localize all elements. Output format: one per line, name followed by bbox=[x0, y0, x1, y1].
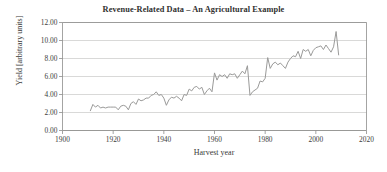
x-axis-title: Harvest year bbox=[62, 148, 366, 157]
y-tick-label: 12.00 bbox=[18, 18, 58, 27]
y-tick-label: 6.00 bbox=[18, 72, 58, 81]
x-tick-label: 1920 bbox=[96, 135, 130, 144]
plot-area bbox=[0, 0, 387, 172]
x-tick-label: 2020 bbox=[350, 135, 384, 144]
y-tick-label: 10.00 bbox=[18, 36, 58, 45]
x-tick-label: 1980 bbox=[248, 135, 282, 144]
y-tick-label: 2.00 bbox=[18, 108, 58, 117]
y-tick-label: 0.00 bbox=[18, 126, 58, 135]
x-tick-label: 1900 bbox=[46, 135, 80, 144]
y-tick-label: 4.00 bbox=[18, 90, 58, 99]
x-tick-label: 1940 bbox=[147, 135, 181, 144]
series-line-0 bbox=[90, 32, 338, 111]
x-tick-label: 2000 bbox=[299, 135, 333, 144]
y-tick-label: 8.00 bbox=[18, 54, 58, 63]
chart-container: Revenue-Related Data – An Agricultural E… bbox=[0, 0, 387, 172]
x-tick-label: 1960 bbox=[198, 135, 232, 144]
